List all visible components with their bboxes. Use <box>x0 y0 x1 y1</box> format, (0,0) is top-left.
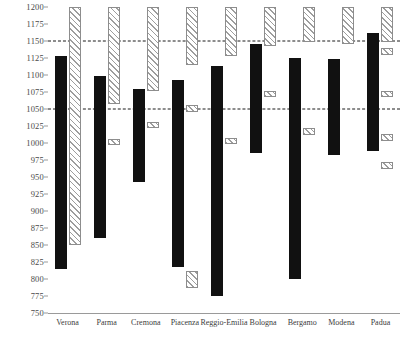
y-axis-tick-label: 875 <box>31 223 44 233</box>
bar-solid <box>172 80 184 266</box>
bar-solid <box>211 66 223 296</box>
bar-solid <box>289 58 301 279</box>
bar-hatched <box>225 7 237 56</box>
y-axis-tick-label: 1175 <box>27 19 45 29</box>
x-axis-tick-label: Piacenza <box>171 318 199 327</box>
bar-solid <box>250 44 262 153</box>
bar-hatched <box>186 271 198 288</box>
bar-solid <box>133 89 145 183</box>
bar-hatched <box>381 162 393 169</box>
y-axis-tick-label: 1125 <box>27 53 45 63</box>
y-axis-tick-label: 950 <box>31 172 44 182</box>
y-axis-tick-label: 1150 <box>27 36 45 46</box>
y-axis-tick-label: 850 <box>31 240 44 250</box>
bar-hatched <box>264 7 276 46</box>
bar-hatched <box>147 7 159 91</box>
y-axis-tick-label: 775 <box>31 291 44 301</box>
y-axis-tick-label: 825 <box>31 257 44 267</box>
chart-container: 1200117511501125110010751050102510009759… <box>0 0 406 352</box>
bar-hatched <box>186 105 198 112</box>
bar-hatched <box>225 138 237 144</box>
bar-hatched <box>69 7 81 245</box>
bar-solid <box>94 76 106 238</box>
bar-solid <box>328 59 340 155</box>
y-axis-tick-label: 750 <box>31 308 44 318</box>
bar-hatched <box>381 134 393 141</box>
y-axis-tick-label: 1050 <box>26 104 44 114</box>
x-axis-tick-label: Padua <box>371 318 391 327</box>
bar-hatched <box>264 91 276 97</box>
y-axis-tick-label: 1025 <box>26 121 44 131</box>
bar-hatched <box>303 128 315 135</box>
bar-hatched <box>186 7 198 65</box>
y-axis-tick-label: 975 <box>31 155 44 165</box>
x-axis-tick-label: Cremona <box>131 318 160 327</box>
x-axis-tick-label: Bergamo <box>288 318 317 327</box>
bar-hatched <box>381 48 393 55</box>
y-axis-tick-label: 1200 <box>26 2 44 12</box>
x-axis-tick-label: Modena <box>328 318 354 327</box>
y-axis-tick-label: 1000 <box>26 138 44 148</box>
bar-hatched <box>147 122 159 128</box>
bar-hatched <box>381 91 393 98</box>
bar-hatched <box>342 7 354 44</box>
bar-hatched <box>303 7 315 42</box>
x-axis-tick-label: Bologna <box>250 318 277 327</box>
y-axis-tick-label: 925 <box>31 189 44 199</box>
bar-hatched <box>381 7 393 42</box>
bar-solid <box>55 56 67 269</box>
bar-hatched <box>108 139 120 145</box>
y-axis: 1200117511501125110010751050102510009759… <box>0 0 44 352</box>
y-axis-tick-label: 800 <box>31 274 44 284</box>
y-axis-tick-label: 1075 <box>26 87 44 97</box>
x-axis-tick-label: Parma <box>96 318 116 327</box>
bar-solid <box>367 33 379 151</box>
x-axis-tick-label: Reggio-Emilia <box>200 318 247 327</box>
x-axis-tick-label: Verona <box>56 318 79 327</box>
y-axis-tick-label: 1100 <box>27 70 45 80</box>
bar-hatched <box>108 7 120 104</box>
x-axis-line <box>48 313 400 314</box>
y-axis-tick-label: 900 <box>31 206 44 216</box>
